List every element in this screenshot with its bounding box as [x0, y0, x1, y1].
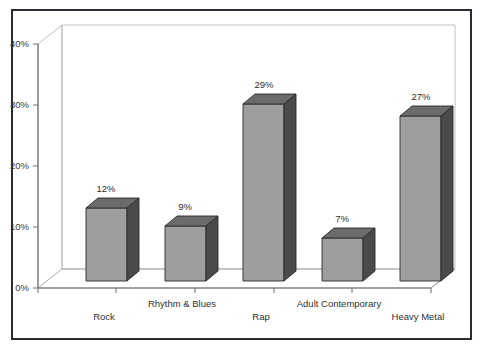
bar-front-face [86, 208, 127, 281]
y-tick-label-4: 40% [10, 38, 30, 49]
chart-container: 0% 10% 20% 30% 40% 12% 9% [0, 0, 483, 350]
bar-adult-contemporary[interactable] [322, 228, 375, 281]
bar-front-face [400, 116, 441, 281]
data-label-heavy-metal: 27% [411, 91, 431, 102]
x-category-label-adult-contemporary: Adult Contemporary [297, 298, 382, 309]
bar-rap[interactable] [243, 94, 296, 281]
bar-rhythm-and-blues[interactable] [165, 216, 218, 281]
bar-side-face [441, 106, 453, 281]
data-label-adult-contemporary: 7% [335, 213, 349, 224]
bar-side-face [284, 94, 296, 281]
y-tick-label-2: 20% [10, 160, 30, 171]
y-tick-label-3: 30% [10, 99, 30, 110]
x-category-label-heavy-metal: Heavy Metal [392, 311, 445, 322]
bar-chart-plot: 0% 10% 20% 30% 40% 12% 9% [0, 0, 483, 350]
data-label-rock: 12% [96, 183, 116, 194]
y-axis [33, 44, 38, 288]
bar-side-face [206, 216, 218, 281]
bar-heavy-metal[interactable] [400, 106, 453, 281]
x-axis [38, 288, 431, 293]
x-category-label-rhythm-and-blues: Rhythm & Blues [148, 298, 216, 309]
bar-front-face [243, 104, 284, 281]
bar-front-face [322, 238, 363, 281]
x-category-label-rock: Rock [93, 311, 115, 322]
y-tick-label-1: 10% [10, 221, 30, 232]
y-tick-label-0: 0% [15, 282, 29, 293]
bar-side-face [127, 198, 139, 281]
bar-side-face [363, 228, 375, 281]
x-category-label-rap: Rap [252, 311, 269, 322]
bar-front-face [165, 226, 206, 281]
data-label-rhythm-and-blues: 9% [178, 201, 192, 212]
bar-rock[interactable] [86, 198, 139, 281]
data-label-rap: 29% [254, 79, 274, 90]
